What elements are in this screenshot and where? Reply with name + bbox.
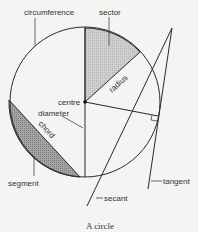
tangent-label: tangent — [163, 177, 190, 186]
circle-diagram: circumference sector radius centre diame… — [0, 0, 198, 232]
centre-label: centre — [58, 98, 81, 107]
sector-label: sector — [99, 8, 121, 17]
figure-caption: A circle — [86, 221, 114, 231]
centre-dot — [83, 100, 87, 104]
circumference-label: circumference — [24, 8, 75, 17]
segment-label: segment — [8, 179, 39, 188]
secant-label: secant — [104, 194, 128, 203]
diameter-label: diameter — [38, 109, 69, 118]
radius-to-tangent — [85, 102, 158, 116]
